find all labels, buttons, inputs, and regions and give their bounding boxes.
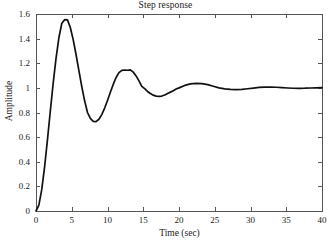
axes-frame bbox=[37, 15, 323, 212]
axis-ticks bbox=[36, 14, 322, 211]
y-tick-label: 0.4 bbox=[0, 157, 30, 167]
y-tick-label: 1.4 bbox=[0, 34, 30, 44]
x-tick-label: 20 bbox=[175, 215, 184, 225]
chart-canvas bbox=[0, 0, 331, 242]
x-tick-label: 0 bbox=[34, 215, 39, 225]
x-tick-label: 15 bbox=[139, 215, 148, 225]
x-tick-label: 25 bbox=[210, 215, 219, 225]
x-tick-label: 30 bbox=[246, 215, 255, 225]
x-tick-label: 10 bbox=[103, 215, 112, 225]
x-tick-label: 5 bbox=[70, 215, 75, 225]
step-response-curve bbox=[36, 20, 322, 211]
x-tick-label: 35 bbox=[282, 215, 291, 225]
y-tick-label: 1.6 bbox=[0, 9, 30, 19]
x-tick-label: 40 bbox=[318, 215, 327, 225]
x-axis-label: Time (sec) bbox=[36, 228, 323, 238]
step-response-figure: Step response 00.20.40.60.811.21.41.6 05… bbox=[0, 0, 331, 242]
y-tick-label: 0.2 bbox=[0, 181, 30, 191]
y-tick-label: 0 bbox=[0, 206, 30, 216]
y-axis-label: Amplitude bbox=[4, 66, 14, 136]
